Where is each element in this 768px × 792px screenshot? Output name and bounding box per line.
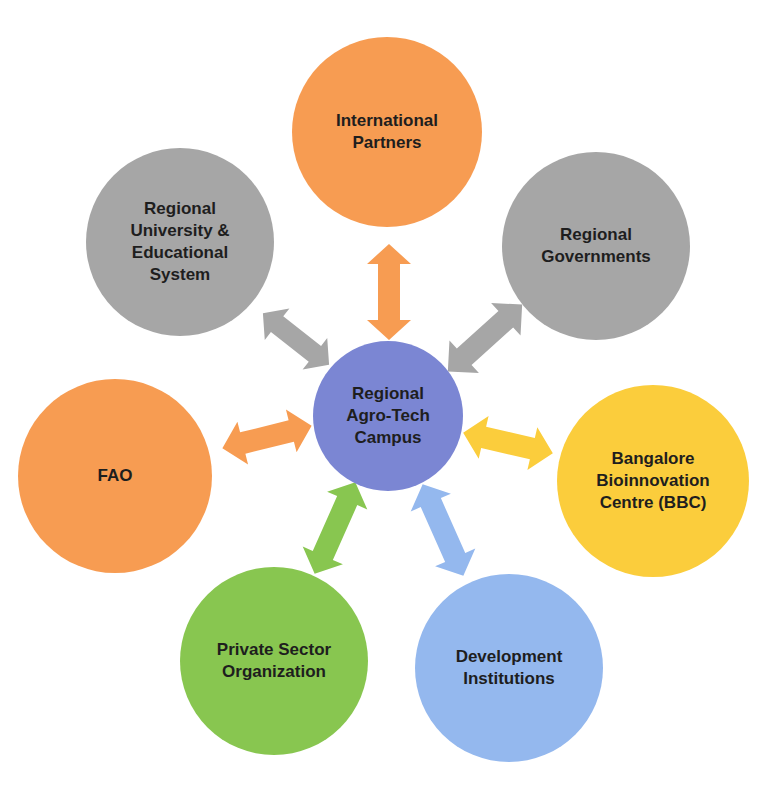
arrow-bbc [458,411,558,475]
node-label: RegionalUniversity &EducationalSystem [118,198,241,286]
arrow-fao [217,405,317,470]
node-label: Private SectorOrganization [205,639,343,683]
arrow-private-sector [295,473,376,582]
arrow-development-institutions [403,475,484,584]
node-label: BangaloreBioinnovationCentre (BBC) [584,448,721,514]
node-fao: FAO [18,379,212,573]
arrow-regional-university [251,297,342,380]
node-label: DevelopmentInstitutions [444,646,575,690]
node-regional-university: RegionalUniversity &EducationalSystem [86,148,274,336]
node-international-partners: InternationalPartners [292,37,482,227]
node-regional-governments: RegionalGovernments [502,152,690,340]
node-label: FAO [86,465,145,487]
arrow-international-partners [367,244,411,340]
node-label: RegionalAgro-TechCampus [334,383,442,449]
node-label: RegionalGovernments [529,224,663,268]
node-bbc: BangaloreBioinnovationCentre (BBC) [557,385,749,577]
node-label: InternationalPartners [324,110,450,154]
node-private-sector: Private SectorOrganization [180,567,368,755]
node-center-regional-agro-tech-campus: RegionalAgro-TechCampus [313,341,463,491]
node-development-institutions: DevelopmentInstitutions [415,574,603,762]
